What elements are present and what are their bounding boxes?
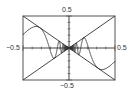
- y-bottom-tick-label: −0.5: [60, 82, 74, 90]
- x-right-tick-label: 0.5: [117, 44, 127, 52]
- y-top-tick-label: 0.5: [62, 6, 72, 14]
- x-left-tick-label: −0.5: [6, 44, 20, 52]
